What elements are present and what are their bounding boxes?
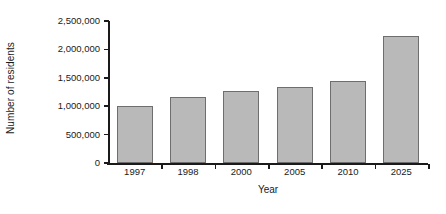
x-axis-title: Year xyxy=(108,184,428,196)
y-axis-tick-mark xyxy=(104,49,109,51)
x-axis-tick-label: 1997 xyxy=(108,166,161,178)
bar-chart-figure: Number of residents 0500,0001,000,0001,5… xyxy=(0,0,446,214)
y-axis-tick-label: 0 xyxy=(34,158,100,168)
y-axis-tick-mark xyxy=(104,162,109,164)
bar xyxy=(383,36,419,163)
y-axis-tick-mark xyxy=(104,105,109,107)
x-axis-tick-label: 2025 xyxy=(375,166,428,178)
y-axis-title: Number of residents xyxy=(2,6,20,170)
y-axis-tick-label: 1,500,000 xyxy=(34,73,100,83)
x-axis-tick-labels: 199719982000200520102025 xyxy=(108,166,428,180)
x-axis-tick-mark xyxy=(428,164,430,169)
bar xyxy=(117,106,153,163)
y-axis-tick-label: 1,000,000 xyxy=(34,101,100,111)
plot-area xyxy=(108,21,428,163)
bar xyxy=(330,81,366,163)
y-axis-tick-label: 500,000 xyxy=(34,130,100,140)
y-axis-tick-mark xyxy=(104,77,109,79)
y-axis-tick-mark xyxy=(104,20,109,22)
y-axis-line xyxy=(108,21,110,163)
x-axis-tick-label: 2005 xyxy=(268,166,321,178)
y-axis-tick-labels: 0500,0001,000,0001,500,0002,000,0002,500… xyxy=(32,0,100,214)
x-axis-tick-label: 1998 xyxy=(161,166,214,178)
y-axis-tick-label: 2,000,000 xyxy=(34,44,100,54)
bar xyxy=(170,97,206,163)
y-axis-tick-label: 2,500,000 xyxy=(34,16,100,26)
y-axis-tick-mark xyxy=(104,134,109,136)
bar xyxy=(277,87,313,163)
x-axis-tick-label: 2000 xyxy=(215,166,268,178)
x-axis-tick-label: 2010 xyxy=(321,166,374,178)
bar xyxy=(223,91,259,163)
